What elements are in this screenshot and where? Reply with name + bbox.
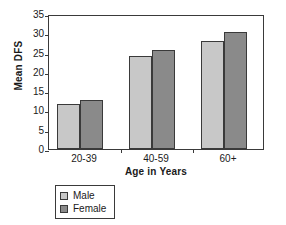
x-tick-label: 40-59 [120, 153, 192, 165]
y-tick-mark [45, 151, 49, 152]
y-tick-label: 5 [20, 126, 44, 136]
y-axis-tick-labels: 05101520253035 [20, 10, 44, 152]
y-tick-label: 0 [20, 145, 44, 155]
plot-area [48, 15, 264, 150]
x-tick-label: 60+ [192, 153, 264, 165]
y-tick-label: 25 [20, 49, 44, 59]
legend-label: Male [73, 191, 95, 201]
y-tick-label: 30 [20, 29, 44, 39]
y-tick-label: 20 [20, 68, 44, 78]
legend-item-female: Female [60, 202, 106, 215]
x-axis-title: Age in Years [48, 166, 264, 177]
bar-group [121, 16, 193, 149]
x-tick-label: 20-39 [48, 153, 120, 165]
y-tick-label: 35 [20, 10, 44, 20]
bar-female-20-39 [80, 100, 103, 149]
bars-layer [49, 16, 263, 149]
y-tick-label: 10 [20, 106, 44, 116]
x-axis-tick-labels: 20-3940-5960+ [48, 153, 264, 167]
bar-group [49, 16, 121, 149]
bar-male-40-59 [129, 56, 152, 149]
bar-female-60+ [224, 32, 247, 149]
legend-swatch-icon [60, 205, 68, 213]
chart-legend: MaleFemale [55, 185, 115, 219]
bar-group [193, 16, 265, 149]
bar-male-20-39 [57, 104, 80, 149]
y-tick-label: 15 [20, 87, 44, 97]
bar-female-40-59 [152, 50, 175, 149]
legend-swatch-icon [60, 192, 68, 200]
bar-chart-figure: Mean DFS 05101520253035 20-3940-5960+ Ag… [0, 0, 286, 225]
legend-item-male: Male [60, 189, 106, 202]
legend-label: Female [73, 204, 106, 214]
bar-male-60+ [201, 41, 224, 149]
